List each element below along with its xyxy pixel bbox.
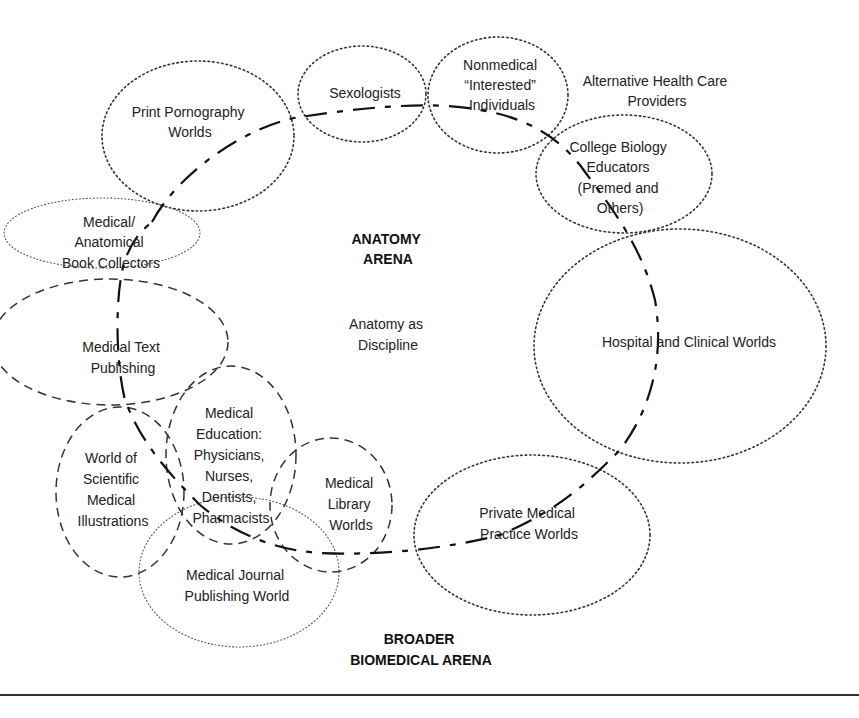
label-nonmedical: Nonmedical “Interested” Individuals — [463, 57, 541, 113]
label-medical-library: Medical Library Worlds — [325, 475, 377, 533]
label-college-biology: College Biology Educators (Premed and Ot… — [569, 139, 670, 216]
label-private-practice: Private Medical Practice Worlds — [479, 505, 579, 542]
arena-diagram: Print Pornography Worlds Sexologists Non… — [0, 0, 859, 718]
broader-arena-title: BROADER BIOMEDICAL ARENA — [350, 631, 492, 668]
label-journal-publishing: Medical Journal Publishing World — [185, 567, 290, 604]
label-alternative-health-care: Alternative Health Care Providers — [583, 73, 732, 109]
anatomy-discipline-label: Anatomy as Discipline — [349, 316, 427, 353]
label-print-pornography: Print Pornography Worlds — [132, 104, 249, 140]
label-hospital: Hospital and Clinical Worlds — [602, 334, 776, 350]
anatomy-arena-title: ANATOMY ARENA — [351, 231, 424, 267]
label-medical-text-publishing: Medical Text Publishing — [82, 339, 163, 376]
label-scientific-illustrations: World of Scientific Medical Illustration… — [78, 450, 149, 529]
label-sexologists: Sexologists — [329, 85, 401, 101]
label-book-collectors: Medical/ Anatomical Book Collectors — [62, 214, 160, 271]
